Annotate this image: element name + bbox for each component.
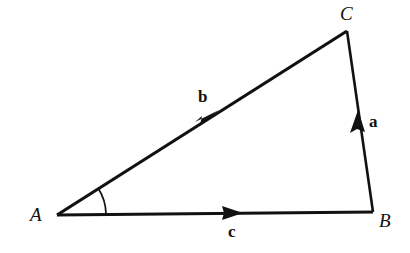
edge-line-ab: [57, 212, 373, 215]
arrowhead-a: [350, 110, 365, 133]
arrowhead-b: [195, 110, 219, 125]
arrowhead-c: [222, 206, 243, 220]
vector-label-a: a: [369, 113, 378, 130]
triangle-diagram-svg: [0, 0, 410, 253]
vertex-label-a: A: [30, 205, 42, 224]
vertex-label-c: C: [340, 4, 353, 23]
vertex-label-b: B: [379, 211, 391, 230]
vector-label-c: c: [228, 223, 236, 240]
vector-label-b: b: [198, 88, 207, 105]
diagram-canvas: A B C b a c: [0, 0, 410, 253]
angle-arc-at-a: [98, 188, 106, 214]
